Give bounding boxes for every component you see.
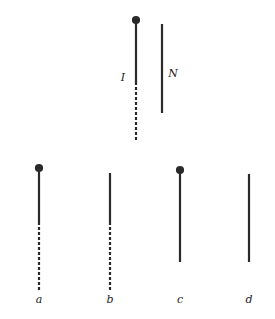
label-a: a xyxy=(36,293,43,306)
label-N: N xyxy=(168,67,178,80)
chromosome-I xyxy=(133,17,139,142)
chromosome-a xyxy=(36,165,42,290)
label-d: d xyxy=(245,293,252,306)
label-I: I xyxy=(121,71,125,84)
label-b: b xyxy=(106,293,113,306)
label-c: c xyxy=(177,293,183,306)
chromosome-c xyxy=(177,167,183,262)
diagram-canvas xyxy=(0,0,275,319)
